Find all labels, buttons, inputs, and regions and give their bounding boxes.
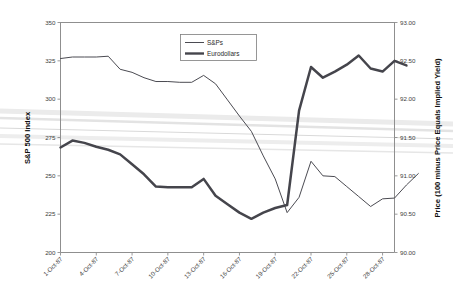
y-axis-left-tick-label: 225 <box>45 210 56 217</box>
x-axis-tick-label: 13-Oct-87 <box>182 255 207 280</box>
y-axis-right-tick-label: 92.00 <box>400 95 416 102</box>
x-axis-ticks: 1-Oct-874-Oct-877-Oct-8710-Oct-8713-Oct-… <box>42 253 386 280</box>
x-axis-tick-label: 19-Oct-87 <box>254 255 279 280</box>
y-axis-left-tick-label: 275 <box>45 134 56 141</box>
y-axis-left-tick-label: 250 <box>45 172 56 179</box>
x-axis-tick-label: 7-Oct-87 <box>113 255 135 277</box>
y-axis-left-tick-label: 350 <box>45 19 56 26</box>
y-axis-right-tick-label: 90.00 <box>400 249 416 256</box>
x-axis-tick-label: 4-Oct-87 <box>78 255 100 277</box>
scan-artifact-streaks <box>0 111 453 153</box>
y-axis-right-tick-label: 93.00 <box>400 19 416 26</box>
y-axis-right-tick-label: 91.50 <box>400 134 416 141</box>
y-axis-right-title: Price (100 minus Price Equals Implied Yi… <box>433 58 442 218</box>
y-axis-left-tick-label: 200 <box>45 249 56 256</box>
legend-label-s-and-ps: S&Ps <box>207 39 223 46</box>
y-axis-left-ticks: 200225250275300325350 <box>45 19 60 256</box>
chart-container: 200225250275300325350 90.0090.5091.0091.… <box>0 0 453 302</box>
x-axis-tick-label: 1-Oct-87 <box>42 255 64 277</box>
x-axis-tick-label: 25-Oct-87 <box>326 255 351 280</box>
chart-legend: S&Ps Eurodollars <box>181 35 257 61</box>
y-axis-left-tick-label: 325 <box>45 57 56 64</box>
legend-label-eurodollars: Eurodollars <box>207 50 239 57</box>
y-axis-left-title: S&P 500 Index <box>23 111 32 164</box>
x-axis-tick-label: 16-Oct-87 <box>218 255 243 280</box>
x-axis-tick-label: 28-Oct-87 <box>361 255 386 280</box>
y-axis-right-tick-label: 90.50 <box>400 210 416 217</box>
series-line-s-ps <box>61 56 419 212</box>
y-axis-left-tick-label: 300 <box>45 95 56 102</box>
x-axis-tick-label: 10-Oct-87 <box>147 255 172 280</box>
line-chart: 200225250275300325350 90.0090.5091.0091.… <box>0 0 453 302</box>
x-axis-tick-label: 22-Oct-87 <box>290 255 315 280</box>
